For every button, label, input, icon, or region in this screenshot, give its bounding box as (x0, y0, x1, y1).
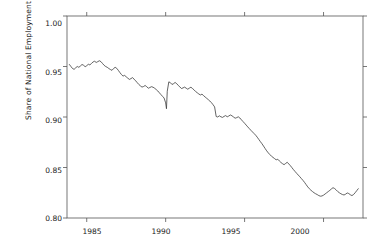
plot-area (0, 0, 376, 252)
axis-frame (67, 16, 363, 218)
tick-marks (63, 12, 367, 222)
chart-figure: Share of National Employment 1.00 0.95 0… (0, 0, 376, 252)
data-line-share-of-national-employment (69, 61, 358, 196)
